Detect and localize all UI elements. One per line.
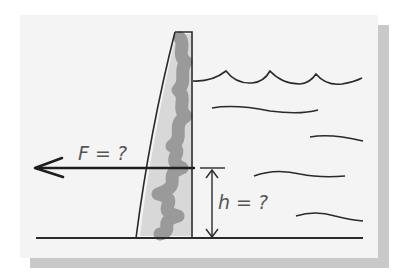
height-label: h = ?	[218, 191, 268, 213]
dam-diagram: F = ? h = ?	[0, 0, 409, 279]
dam-fill	[140, 34, 191, 236]
water-surface-waves	[193, 71, 362, 84]
force-label: F = ?	[78, 142, 127, 164]
